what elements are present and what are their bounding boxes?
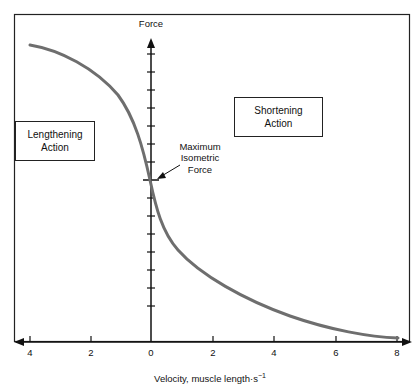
y-axis-up-arrow-icon: [147, 38, 155, 48]
shortening-action-box: Shortening Action: [234, 97, 323, 137]
x-tick-label: 4: [266, 347, 282, 358]
chart-canvas: [0, 0, 420, 389]
x-tick-label: 6: [328, 347, 344, 358]
force-velocity-curve: [30, 45, 398, 338]
x-tick-label: 8: [389, 347, 405, 358]
x-axis-label-text: Velocity, muscle length·s: [154, 373, 258, 384]
y-axis-label: Force: [136, 18, 166, 29]
iso-label-line3: Force: [170, 164, 230, 175]
max-isometric-force-label: Maximum Isometric Force: [170, 141, 230, 175]
shortening-label-line1: Shortening: [254, 104, 302, 118]
chart-frame: [15, 15, 410, 342]
lengthening-label-line1: Lengthening: [27, 128, 82, 142]
lengthening-action-box: Lengthening Action: [15, 121, 95, 161]
x-tick-label: 2: [205, 347, 221, 358]
iso-label-line1: Maximum: [170, 141, 230, 152]
x-axis-right-arrow-icon: [402, 338, 412, 346]
x-tick-label: 0: [143, 347, 159, 358]
x-axis-label: Velocity, muscle length·s−1: [130, 372, 290, 385]
x-axis-left-arrow-icon: [14, 338, 24, 346]
iso-label-line2: Isometric: [170, 152, 230, 163]
x-tick-label: 4: [22, 347, 38, 358]
x-axis-label-exponent: −1: [258, 372, 266, 379]
shortening-label-line2: Action: [254, 117, 302, 131]
x-tick-label: 2: [83, 347, 99, 358]
lengthening-label-line2: Action: [27, 141, 82, 155]
